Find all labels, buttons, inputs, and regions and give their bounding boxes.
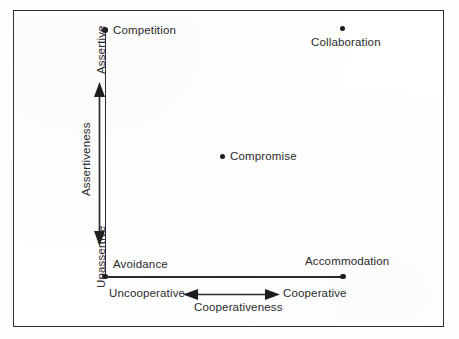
- data-point-compromise: [220, 154, 225, 159]
- cooperativeness-axis-line: [105, 276, 343, 278]
- y-axis-title: Assertiveness: [80, 122, 92, 196]
- axis-tick-uncooperative: Uncooperative: [109, 287, 185, 299]
- axis-tick-cooperative: Cooperative: [283, 287, 347, 299]
- data-label-compromise: Compromise: [230, 150, 297, 162]
- data-label-competition: Competition: [113, 24, 176, 36]
- axis-tick-unassertive: Unassertive: [95, 226, 107, 288]
- figure-page: Competition Collaboration Compromise Avo…: [0, 0, 459, 339]
- data-label-collaboration: Collaboration: [311, 36, 381, 48]
- data-label-avoidance: Avoidance: [113, 258, 168, 270]
- assertiveness-double-arrow-icon: [93, 82, 106, 246]
- cooperativeness-double-arrow-icon: [183, 288, 280, 301]
- axis-tick-assertive: Assertive: [95, 25, 107, 74]
- data-label-accommodation: Accommodation: [305, 255, 389, 267]
- x-axis-title: Cooperativeness: [194, 301, 283, 313]
